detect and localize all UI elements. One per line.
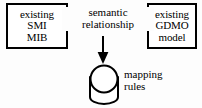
diagram-canvas: existing SMI MIB existing GDMO model sem… — [0, 0, 202, 108]
semantic-relationship-label: semantic relationship — [62, 7, 154, 31]
mapping-rules-line-1: mapping — [124, 68, 163, 80]
mapping-rules-cylinder-icon[interactable] — [86, 63, 122, 105]
entity-box-left-line-3: MIB — [27, 32, 47, 43]
entity-box-right-line-3: model — [159, 32, 186, 43]
mapping-rules-line-2: rules — [124, 80, 163, 92]
semantic-relationship-line-2: relationship — [62, 19, 154, 31]
entity-box-existing-smi-mib[interactable]: existing SMI MIB — [6, 3, 68, 49]
mapping-down-arrow-icon — [95, 36, 111, 64]
entity-box-existing-gdmo-model[interactable]: existing GDMO model — [147, 3, 197, 49]
mapping-rules-label: mapping rules — [124, 68, 163, 93]
entity-box-left-line-2: SMI — [27, 20, 46, 31]
entity-box-right-line-2: GDMO — [155, 20, 188, 31]
